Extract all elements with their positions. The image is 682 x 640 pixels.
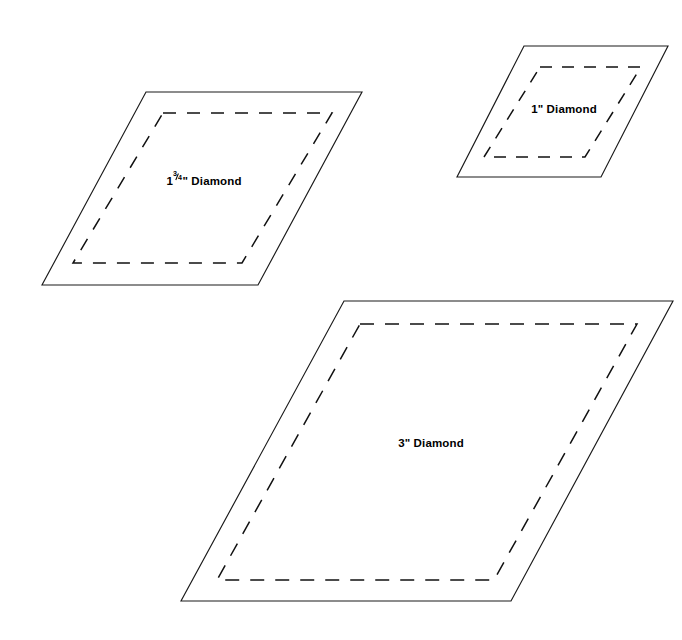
diamond-3-outline (181, 301, 673, 601)
diamond-1-label: 1" Diamond (531, 104, 597, 116)
fraction-denominator: 4 (178, 175, 182, 182)
template-sheet: 134" Diamond 1" Diamond 3" Diamond (0, 0, 682, 640)
diamond-1-3-4-outline (42, 92, 362, 285)
diamond-3-label: 3" Diamond (398, 438, 464, 450)
shape-group-diamond-1-3-4 (42, 92, 362, 285)
shape-group-diamond-3 (181, 301, 673, 601)
diamond-templates-canvas (0, 0, 682, 640)
diamond-1-3-4-label-suffix: " Diamond (182, 175, 241, 187)
diamond-1-label-text: 1" Diamond (531, 103, 597, 115)
diamond-1-3-4-label: 134" Diamond (166, 173, 241, 187)
diamond-3-label-text: 3" Diamond (398, 437, 464, 449)
fraction-three-quarters: 34 (173, 173, 182, 185)
